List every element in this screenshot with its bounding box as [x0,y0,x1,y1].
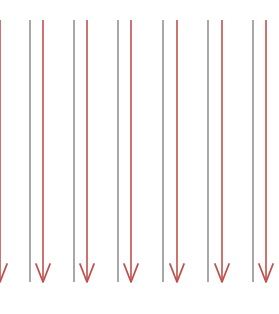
down-arrow-icon [0,20,7,282]
down-arrow-icon [80,20,94,282]
down-arrow-icon [36,20,50,282]
arrow-diagram [0,0,279,314]
down-arrow-icon [170,20,184,282]
down-arrow-icon [215,20,229,282]
down-arrow-icon [259,20,273,282]
down-arrow-icon [124,20,138,282]
red-arrows-group [0,20,273,282]
gray-lines-group [30,20,253,282]
